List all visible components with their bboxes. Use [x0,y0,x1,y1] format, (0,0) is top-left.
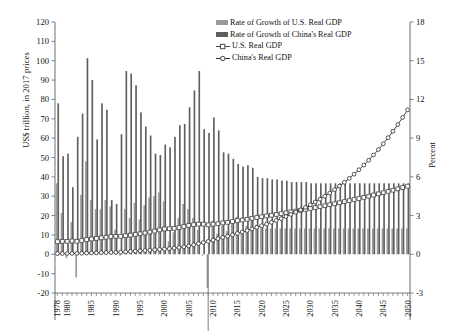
line-china-gdp-marker [119,250,123,254]
line-china-gdp-marker [328,191,332,195]
line-china-gdp-marker [318,197,322,201]
y-tick-label-right: 0 [416,249,420,259]
bar-us-growth [221,226,223,254]
bar-china-growth [82,114,84,255]
line-us-gdp-marker [201,222,205,226]
x-tick-label: 2010 [209,300,218,317]
line-us-gdp-marker [231,220,235,224]
bar-us-growth [95,209,97,254]
line-us-gdp-marker [265,214,269,218]
line-china-gdp-marker [172,246,176,250]
line-us-gdp-marker [187,224,191,228]
line-china-gdp-marker [381,142,385,146]
bar-us-growth [104,200,106,254]
y-tick-label-right: 18 [416,17,425,27]
line-us-gdp-marker [133,232,137,236]
line-us-gdp-marker [342,200,346,204]
line-china-gdp-marker [70,252,74,256]
line-us-gdp-marker [153,229,157,233]
bar-us-growth [61,213,63,254]
bar-china-growth [310,183,312,254]
bar-china-growth [276,179,278,254]
bar-china-growth [335,183,337,254]
line-china-gdp-marker [158,248,162,252]
bar-us-growth [401,228,403,254]
bar-us-growth [391,228,393,254]
bar-us-growth [75,254,77,277]
bar-us-growth [250,217,252,254]
x-tick-label: 2040 [355,300,364,317]
bar-china-growth [155,154,157,255]
x-tick-label: 1985 [87,300,96,317]
line-us-gdp-marker [323,204,327,208]
bar-china-growth [77,137,79,254]
line-us-gdp-marker [255,216,259,220]
y-tick-label-left: 110 [36,36,49,46]
bar-us-growth [90,200,92,254]
line-china-gdp-marker [279,217,283,221]
bar-us-growth [241,234,243,255]
line-china-gdp-marker [245,229,249,233]
x-tick-label: 2020 [258,300,267,317]
line-us-gdp-marker [158,228,162,232]
line-us-gdp-marker [221,221,225,225]
bar-china-growth [403,183,405,254]
line-us-gdp-marker [352,198,356,202]
line-china-gdp-marker [216,237,220,241]
bar-us-growth [309,228,311,254]
line-china-gdp-marker [138,249,142,253]
line-us-gdp-marker [250,216,254,220]
bar-us-growth [299,228,301,254]
bar-china-growth [150,136,152,255]
bar-us-growth [314,228,316,254]
bar-china-growth [247,165,249,254]
line-us-gdp-marker [260,215,264,219]
y-tick-label-right: 3 [416,211,420,221]
line-us-gdp-marker [284,211,288,215]
line-us-gdp-marker [362,195,366,199]
line-us-gdp-marker [75,239,79,243]
line-china-gdp-marker [226,234,230,238]
bar-us-growth [406,228,408,254]
line-china-gdp-marker [294,210,298,214]
line-china-gdp-marker [323,194,327,198]
line-us-gdp-marker [197,222,201,226]
bar-china-growth [252,168,254,254]
line-china-gdp-marker [406,108,410,112]
line-china-gdp-marker [284,215,288,219]
x-tick-label: 2035 [331,300,340,317]
bar-china-growth [101,103,103,254]
line-china-gdp-marker [235,232,239,236]
line-us-gdp-marker [328,203,332,207]
line-china-gdp-marker [352,172,356,176]
bar-china-growth [164,145,166,255]
y-tick-label-left: 120 [36,17,49,27]
bar-china-growth [91,80,93,254]
bar-us-growth [343,228,345,254]
line-china-gdp-marker [401,115,405,119]
bar-china-growth [57,103,59,254]
line-china-gdp-marker [357,168,361,172]
line-us-gdp-marker [70,239,74,243]
line-us-gdp-marker [318,205,322,209]
line-china-gdp-marker [143,249,147,253]
bar-us-growth [362,228,364,254]
bar-us-growth [153,196,155,254]
line-china-gdp-marker [372,153,376,157]
line-us-gdp-marker [211,222,215,226]
line-us-gdp-marker [216,222,220,226]
line-us-gdp-marker [245,217,249,221]
bar-us-growth [328,228,330,254]
bar-china-growth [116,204,118,254]
bar-us-growth [275,228,277,254]
bar-china-growth [179,125,181,254]
bar-china-growth [408,183,410,254]
bar-us-growth [80,195,82,254]
line-china-gdp-marker [133,249,137,253]
line-us-gdp-marker [396,187,400,191]
bar-us-growth [304,228,306,254]
line-china-gdp-marker [270,220,274,224]
bar-us-growth [70,222,72,254]
bar-china-growth [126,71,128,254]
line-china-gdp-marker [274,219,278,223]
